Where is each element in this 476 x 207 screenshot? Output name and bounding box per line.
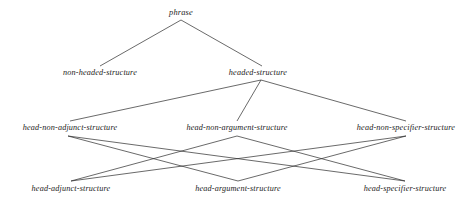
edge-layer bbox=[0, 0, 476, 207]
edge-headed-structure-to-head-non-specifier-structure bbox=[261, 80, 406, 121]
node-headed-structure: headed-structure bbox=[229, 69, 287, 77]
edge-phrase-to-non-headed-structure bbox=[100, 20, 181, 66]
node-head-non-argument-structure: head-non-argument-structure bbox=[186, 124, 287, 132]
type-hierarchy-diagram: phrasenon-headed-structureheaded-structu… bbox=[0, 0, 476, 207]
edge-headed-structure-to-head-non-adjunct-structure bbox=[70, 80, 261, 121]
node-non-headed-structure: non-headed-structure bbox=[63, 69, 137, 77]
node-head-adjunct-structure: head-adjunct-structure bbox=[32, 185, 111, 193]
edge-phrase-to-headed-structure bbox=[181, 20, 262, 66]
node-head-non-specifier-structure: head-non-specifier-structure bbox=[357, 124, 455, 132]
edge-headed-structure-to-head-non-argument-structure bbox=[237, 80, 261, 121]
node-head-argument-structure: head-argument-structure bbox=[195, 185, 280, 193]
node-head-non-adjunct-structure: head-non-adjunct-structure bbox=[23, 124, 117, 132]
node-head-specifier-structure: head-specifier-structure bbox=[364, 185, 447, 193]
node-phrase: phrase bbox=[169, 9, 193, 17]
